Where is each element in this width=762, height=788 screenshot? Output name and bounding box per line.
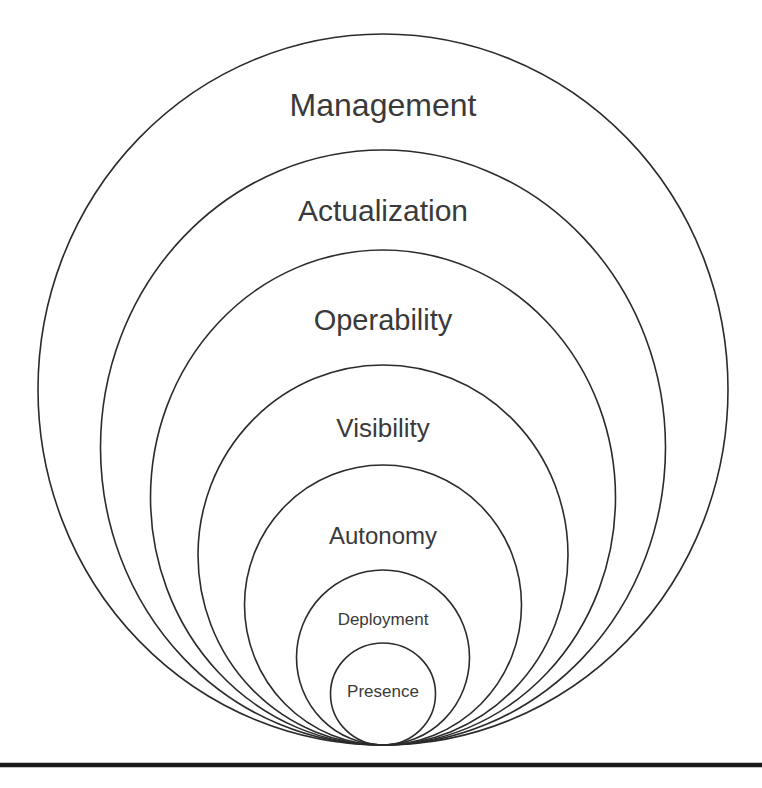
ring-management bbox=[38, 34, 728, 745]
ring-label-visibility: Visibility bbox=[336, 413, 429, 443]
ring-label-management: Management bbox=[290, 87, 477, 123]
ring-label-presence: Presence bbox=[347, 682, 419, 701]
venn-diagram-canvas: ManagementActualizationOperabilityVisibi… bbox=[0, 0, 762, 788]
ring-deployment bbox=[297, 570, 470, 745]
ring-autonomy bbox=[245, 465, 522, 745]
ring-label-operability: Operability bbox=[314, 304, 453, 336]
nested-circles-diagram: ManagementActualizationOperabilityVisibi… bbox=[0, 0, 762, 788]
ring-label-autonomy: Autonomy bbox=[329, 522, 437, 549]
ring-actualization bbox=[101, 150, 666, 745]
ring-label-actualization: Actualization bbox=[298, 194, 468, 227]
ring-label-deployment: Deployment bbox=[338, 610, 429, 629]
rings-group bbox=[38, 34, 728, 745]
labels-group: ManagementActualizationOperabilityVisibi… bbox=[290, 87, 477, 701]
